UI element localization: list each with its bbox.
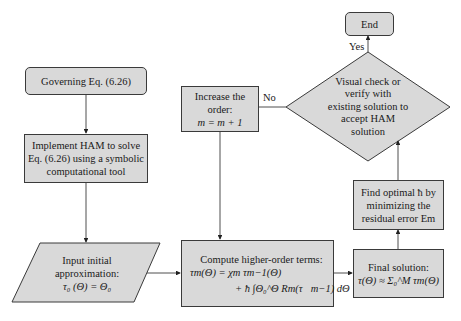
- start-node-governing-eq: Governing Eq. (6.26): [25, 67, 147, 95]
- decision-line-4: accept HAM: [341, 113, 395, 126]
- compute-line-3: + ħ ∫Θ₀^Θ Rm(τ⃗m−1) dΘ: [190, 282, 350, 295]
- process-node-implement-ham: Implement HAM to solve Eq. (6.26) using …: [24, 134, 148, 183]
- final-line-2: τ(Θ) ≈ Σ₀^M τm(Θ): [358, 274, 439, 287]
- process-node-increase-order: Increase the order: m = m + 1: [181, 86, 259, 132]
- implement-line-2: Eq. (6.26) using a symbolic: [28, 152, 144, 165]
- start-label: Governing Eq. (6.26): [41, 75, 131, 88]
- input-line-1: Input initial: [62, 254, 111, 267]
- decision-line-3: existing solution to: [328, 101, 409, 114]
- decision-line-1: Visual check or: [335, 76, 400, 89]
- input-line-3: τ₀ (Θ) = Θ₀: [63, 280, 111, 293]
- input-node-initial-approximation: Input initial approximation: τ₀ (Θ) = Θ₀: [28, 247, 146, 299]
- process-node-find-optimal-h: Find optimal ħ by minimizing the residua…: [353, 180, 444, 230]
- increase-line-2: order:: [207, 103, 232, 116]
- compute-line-1: Compute higher-order terms:: [200, 253, 322, 266]
- increase-line-1: Increase the: [195, 90, 245, 103]
- final-line-1: Final solution:: [368, 261, 429, 274]
- optimal-line-3: residual error Em: [362, 212, 435, 225]
- compute-line-2: τm(Θ) = χm τm−1(Θ): [190, 266, 281, 279]
- end-node: End: [345, 12, 394, 36]
- implement-line-3: computational tool: [46, 165, 125, 178]
- input-line-2: approximation:: [55, 267, 119, 280]
- process-node-compute-higher-order: Compute higher-order terms: τm(Θ) = χm τ…: [181, 240, 334, 307]
- optimal-line-1: Find optimal ħ by: [361, 186, 436, 199]
- increase-line-3: m = m + 1: [197, 116, 242, 129]
- implement-line-1: Implement HAM to solve: [32, 139, 140, 152]
- decision-line-5: solution: [351, 126, 385, 139]
- process-node-final-solution: Final solution: τ(Θ) ≈ Σ₀^M τm(Θ): [353, 249, 444, 298]
- decision-node-visual-check: Visual check or verify with existing sol…: [318, 74, 418, 140]
- decision-line-2: verify with: [345, 88, 391, 101]
- end-label: End: [361, 18, 378, 31]
- edge-label-no: No: [263, 92, 276, 103]
- edge-label-yes: Yes: [349, 41, 364, 52]
- optimal-line-2: minimizing the: [367, 199, 431, 212]
